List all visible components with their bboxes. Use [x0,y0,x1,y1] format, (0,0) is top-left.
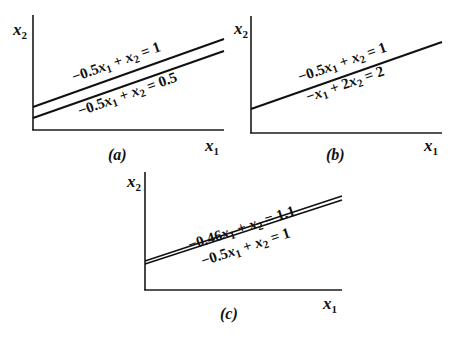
x-axis-label: x1 [423,136,438,157]
x-axis-label: x1 [204,136,219,157]
linear-systems-diagram: x2 x1 −0.5x1 + x2 = 1 −0.5x1 + x2 = 0.5 … [0,0,458,338]
panel-c: x2 x1 −0.46x1 + x2 = 1.1 −0.5x1 + x2 = 1… [126,172,342,323]
y-axis-label: x2 [233,19,249,40]
x-axis-label: x1 [322,294,337,315]
panel-caption: (b) [326,146,345,164]
y-axis-label: x2 [12,20,28,41]
y-axis-label: x2 [126,172,142,193]
panel-a: x2 x1 −0.5x1 + x2 = 1 −0.5x1 + x2 = 0.5 … [12,15,224,164]
panel-caption: (c) [220,305,238,323]
panel-b: x2 x1 −0.5x1 + x2 = 1 −x1 + 2x2 = 2 (b) [233,16,442,164]
panel-caption: (a) [108,146,127,164]
